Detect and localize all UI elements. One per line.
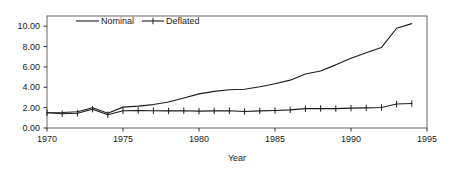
series-markers-deflated xyxy=(47,100,412,118)
y-axis: 0.002.004.006.008.0010.00 xyxy=(17,21,47,133)
x-axis-tick-label: 1985 xyxy=(265,134,285,144)
x-axis-tick-label: 1990 xyxy=(341,134,361,144)
y-axis-tick-label: 10.00 xyxy=(17,21,40,31)
y-axis-tick-label: 0.00 xyxy=(22,123,40,133)
y-axis-tick-label: 6.00 xyxy=(22,62,40,72)
x-axis-tick-label: 1980 xyxy=(189,134,209,144)
series-line-nominal xyxy=(47,24,412,114)
y-axis-tick-label: 4.00 xyxy=(22,82,40,92)
y-axis-tick-label: 8.00 xyxy=(22,42,40,52)
x-axis-tick-label: 1975 xyxy=(113,134,133,144)
chart-container: 0.002.004.006.008.0010.00197019751980198… xyxy=(0,0,452,173)
x-axis-tick-label: 1970 xyxy=(37,134,57,144)
x-axis-title: Year xyxy=(228,153,246,163)
line-chart: 0.002.004.006.008.0010.00197019751980198… xyxy=(0,0,452,173)
x-axis: 197019751980198519901995 xyxy=(37,128,437,144)
legend-label-deflated: Deflated xyxy=(166,16,200,26)
legend-label-nominal: Nominal xyxy=(101,16,134,26)
chart-legend: NominalDeflated xyxy=(76,16,200,26)
x-axis-tick-label: 1995 xyxy=(417,134,437,144)
y-axis-tick-label: 2.00 xyxy=(22,103,40,113)
data-series-group xyxy=(47,24,412,118)
